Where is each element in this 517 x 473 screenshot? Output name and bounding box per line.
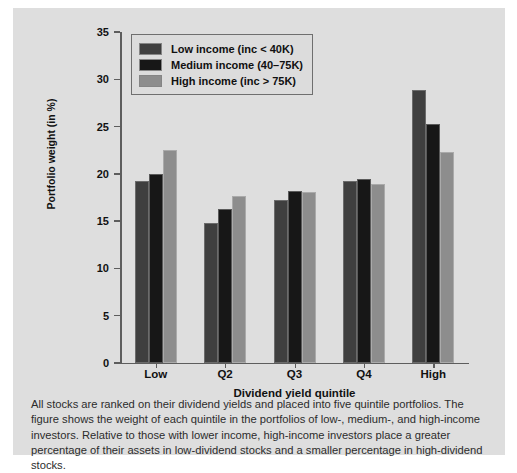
bar <box>204 223 218 363</box>
y-axis-tick-label: 30 <box>69 73 109 85</box>
bar <box>274 200 288 363</box>
legend-label: High income (inc > 75K) <box>171 75 296 87</box>
y-axis-tick-label: 35 <box>69 26 109 38</box>
x-axis-tick-label: Q4 <box>324 368 404 380</box>
legend-item: High income (inc > 75K) <box>139 73 303 88</box>
x-axis-tick-label: Q2 <box>185 368 265 380</box>
bar <box>426 124 440 363</box>
bar-chart: 05101520253035 LowQ2Q3Q4High Portfolio w… <box>13 8 505 383</box>
y-axis-tick-label: 0 <box>69 357 109 369</box>
y-axis-tick-label: 25 <box>69 121 109 133</box>
y-axis-line <box>120 32 122 364</box>
bar <box>412 90 426 363</box>
bar <box>135 181 149 363</box>
y-axis-tick-labels: 05101520253035 <box>65 8 109 383</box>
y-axis-tick-label: 5 <box>69 310 109 322</box>
bar <box>163 150 177 363</box>
legend-color-swatch <box>139 43 162 55</box>
y-axis-tick-label: 20 <box>69 168 109 180</box>
figure-panel: 05101520253035 LowQ2Q3Q4High Portfolio w… <box>13 8 505 455</box>
bar <box>302 192 316 363</box>
x-axis-tick-label: Low <box>116 368 196 380</box>
y-axis-title: Portfolio weight (in %) <box>45 64 57 244</box>
y-axis-tick-label: 10 <box>69 262 109 274</box>
legend-label: Medium income (40–75K) <box>171 59 303 71</box>
bar <box>371 184 385 363</box>
legend-color-swatch <box>139 75 162 87</box>
legend-color-swatch <box>139 59 162 71</box>
y-axis-tick-label: 15 <box>69 215 109 227</box>
bar <box>440 152 454 363</box>
x-axis-line <box>120 363 469 365</box>
bar <box>343 181 357 363</box>
bar <box>232 196 246 363</box>
bar <box>149 174 163 363</box>
bar <box>357 179 371 363</box>
chart-legend: Low income (inc < 40K)Medium income (40–… <box>131 34 313 95</box>
legend-label: Low income (inc < 40K) <box>171 43 294 55</box>
bar <box>218 209 232 363</box>
bar <box>288 191 302 363</box>
legend-item: Medium income (40–75K) <box>139 57 303 72</box>
legend-item: Low income (inc < 40K) <box>139 41 303 56</box>
x-axis-tick-label: Q3 <box>255 368 335 380</box>
figure-caption: All stocks are ranked on their dividend … <box>31 397 493 473</box>
x-axis-tick-label: High <box>393 368 473 380</box>
